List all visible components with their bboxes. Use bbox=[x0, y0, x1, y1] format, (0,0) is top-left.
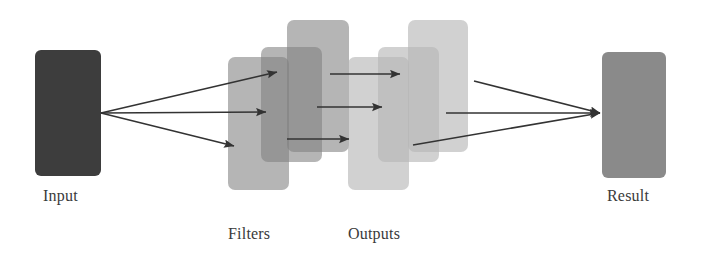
filters-group[interactable] bbox=[228, 20, 349, 190]
filter-card[interactable] bbox=[287, 20, 349, 152]
connector-arrow bbox=[474, 81, 600, 113]
diagram-canvas: Input Filters Outputs Result bbox=[0, 0, 702, 253]
result-label: Result bbox=[607, 188, 649, 204]
diagram-graphics bbox=[0, 0, 702, 253]
input-node[interactable] bbox=[35, 50, 101, 176]
result-node[interactable] bbox=[602, 52, 666, 178]
filters-label: Filters bbox=[228, 226, 270, 242]
output-card[interactable] bbox=[408, 20, 468, 152]
connector-arrow bbox=[101, 113, 234, 146]
input-label: Input bbox=[43, 188, 78, 204]
connector-arrow bbox=[101, 112, 266, 113]
outputs-group[interactable] bbox=[348, 20, 468, 190]
outputs-label: Outputs bbox=[348, 226, 400, 242]
